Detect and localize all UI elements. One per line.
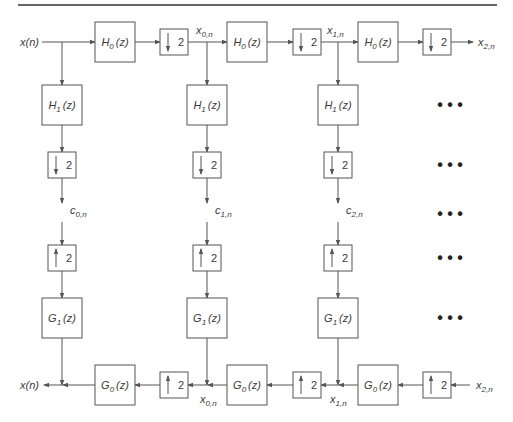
signal-x2-input-label: x2,n: [475, 379, 493, 394]
downsampler-factor: 2: [178, 36, 184, 48]
detail-coefficient-label: c0,n: [70, 204, 87, 219]
ellipsis: • • •: [437, 309, 463, 326]
ellipsis: • • •: [437, 156, 463, 173]
upsampler-factor: 2: [211, 252, 217, 264]
ellipsis: • • •: [437, 205, 463, 222]
ellipsis: • • •: [437, 96, 463, 113]
upsampler-factor: 2: [66, 252, 72, 264]
downsampler-factor: 2: [311, 36, 317, 48]
upsampler-factor: 2: [178, 379, 184, 391]
upsampler-factor: 2: [342, 252, 348, 264]
downsampler-factor: 2: [66, 159, 72, 171]
ellipsis: • • •: [437, 249, 463, 266]
detail-coefficient-label: c1,n: [215, 204, 232, 219]
input-signal-label: x(n): [19, 36, 39, 48]
downsampler-factor: 2: [441, 36, 447, 48]
signal-x1-label: x1,n: [326, 24, 344, 39]
signal-x1-bottom-label: x1,n: [329, 393, 347, 408]
downsampler-factor: 2: [211, 159, 217, 171]
upsampler-factor: 2: [441, 379, 447, 391]
upsampler-factor: 2: [311, 379, 317, 391]
signal-x0-bottom-label: x0,n: [199, 393, 217, 408]
signal-x2-label: x2,n: [477, 36, 495, 51]
detail-coefficient-label: c2,n: [346, 204, 363, 219]
downsampler-factor: 2: [342, 159, 348, 171]
filter-bank-diagram: x(n)H0(z)2H0(z)2H0(z)2x0,nx1,nx2,nH1(z)2…: [0, 0, 513, 422]
signal-x0-label: x0,n: [195, 24, 213, 39]
output-signal-label: x(n): [19, 379, 39, 391]
